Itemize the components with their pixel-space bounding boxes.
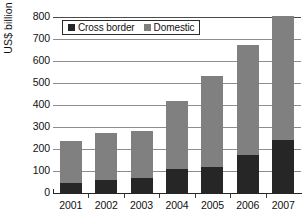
stacked-bar-chart: US$ billion 0100200300400500600700800 20… xyxy=(0,0,308,220)
bar-group xyxy=(131,131,153,193)
bar-segment xyxy=(95,133,117,180)
bar-group xyxy=(237,45,259,194)
y-axis-tick-label: 600 xyxy=(16,55,50,66)
x-axis-tick xyxy=(195,194,196,198)
y-axis-tick-label: 700 xyxy=(16,33,50,44)
y-axis-tick-label: 400 xyxy=(16,99,50,110)
legend-label: Cross border xyxy=(78,23,135,33)
y-axis-tick-labels: 0100200300400500600700800 xyxy=(16,11,50,195)
x-axis-tick xyxy=(230,194,231,198)
x-axis-tick xyxy=(266,194,267,198)
x-axis-tick-label: 2007 xyxy=(263,199,303,212)
bars-layer xyxy=(53,17,301,193)
bar-group xyxy=(60,141,82,193)
x-axis-tick xyxy=(159,194,160,198)
bar-segment xyxy=(60,141,82,183)
y-axis-tick-label: 800 xyxy=(16,11,50,22)
bar-group xyxy=(166,101,188,193)
y-axis-title: US$ billion xyxy=(2,0,16,74)
bar-segment xyxy=(166,101,188,169)
bar-segment xyxy=(166,169,188,193)
chart-legend: Cross borderDomestic xyxy=(62,20,200,35)
legend-swatch-domestic xyxy=(144,24,151,31)
y-axis-tick-label: 0 xyxy=(16,187,50,198)
bar-segment xyxy=(131,131,153,178)
x-axis-tick-label: 2002 xyxy=(86,199,126,212)
bar-group xyxy=(201,76,223,193)
legend-label: Domestic xyxy=(154,23,195,33)
x-axis-tick xyxy=(124,194,125,198)
plot-area xyxy=(53,17,301,193)
bar-segment xyxy=(237,155,259,194)
bar-segment xyxy=(95,180,117,193)
y-axis-tick-label: 500 xyxy=(16,77,50,88)
bar-segment xyxy=(237,45,259,155)
x-axis-tick-labels: 2001200220032004200520062007 xyxy=(53,199,302,215)
x-axis-tick-label: 2003 xyxy=(122,199,162,212)
bar-segment xyxy=(201,167,223,193)
x-axis-tick-label: 2004 xyxy=(157,199,197,212)
y-axis-tick-label: 200 xyxy=(16,143,50,154)
bar-segment xyxy=(201,76,223,166)
y-axis-tick-label: 300 xyxy=(16,121,50,132)
legend-swatch-cross-border xyxy=(68,24,75,31)
legend-entry: Cross border xyxy=(68,23,135,33)
y-axis-tick-label: 100 xyxy=(16,165,50,176)
bar-segment xyxy=(272,16,294,140)
x-axis-tick-label: 2005 xyxy=(192,199,232,212)
x-axis-tick xyxy=(88,194,89,198)
x-axis-tick-label: 2006 xyxy=(228,199,268,212)
bar-group xyxy=(272,16,294,193)
bar-group xyxy=(95,133,117,194)
legend-entry: Domestic xyxy=(144,23,195,33)
x-axis-tick-label: 2001 xyxy=(51,199,91,212)
bar-segment xyxy=(131,178,153,193)
bar-segment xyxy=(60,183,82,193)
bar-segment xyxy=(272,140,294,193)
